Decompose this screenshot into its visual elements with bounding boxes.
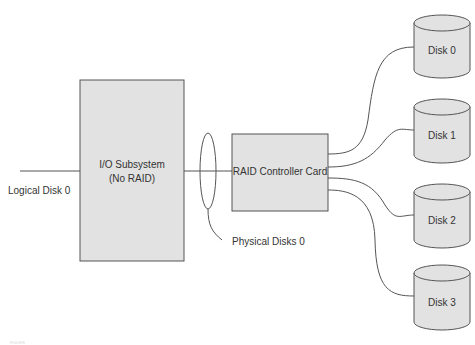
raid-controller-label: RAID Controller Card bbox=[233, 166, 327, 177]
cable-disk-3 bbox=[328, 190, 414, 296]
io-subsystem-label-line1: I/O Subsystem bbox=[99, 159, 165, 170]
cable-disk-2 bbox=[328, 178, 414, 216]
raid-diagram: Logical Disk 0 I/O Subsystem (No RAID) P… bbox=[0, 0, 475, 345]
cable-disk-1 bbox=[328, 129, 414, 167]
physical-disks-label: Physical Disks 0 bbox=[232, 236, 305, 247]
disk-0-label: Disk 0 bbox=[428, 45, 456, 56]
disk-1: Disk 1 bbox=[414, 99, 470, 163]
disk-2-label: Disk 2 bbox=[428, 215, 456, 226]
disk-2: Disk 2 bbox=[414, 184, 470, 248]
io-subsystem-label-line2: (No RAID) bbox=[109, 173, 155, 184]
disk-3-label: Disk 3 bbox=[428, 297, 456, 308]
logical-disk-label: Logical Disk 0 bbox=[8, 185, 71, 196]
figure-caption: FIGURE bbox=[10, 340, 25, 345]
disk-1-label: Disk 1 bbox=[428, 130, 456, 141]
io-subsystem-box bbox=[80, 80, 184, 261]
disk-0: Disk 0 bbox=[414, 15, 470, 78]
cable-disk-0 bbox=[328, 47, 414, 154]
disk-3: Disk 3 bbox=[414, 265, 470, 330]
physical-disks-leader bbox=[208, 209, 222, 240]
